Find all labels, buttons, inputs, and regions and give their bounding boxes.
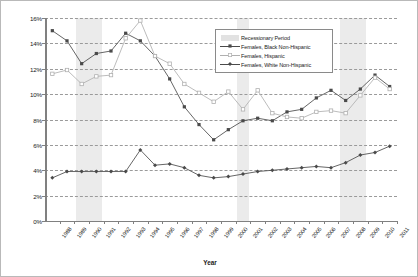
data-point xyxy=(65,170,69,174)
data-point xyxy=(227,90,230,93)
data-point xyxy=(197,91,200,94)
data-point xyxy=(124,37,127,40)
data-point xyxy=(300,108,303,111)
data-point xyxy=(241,119,244,122)
data-point xyxy=(315,110,318,113)
legend-label: Females, White Non-Hispanic xyxy=(241,62,311,68)
data-point xyxy=(94,170,98,174)
data-point xyxy=(109,49,112,52)
data-point xyxy=(95,75,98,78)
data-point xyxy=(285,167,289,171)
legend-key-icon xyxy=(219,33,241,42)
data-point xyxy=(271,119,274,122)
legend: Recessionary PeriodFemales, Black Non-Hi… xyxy=(215,29,333,73)
data-point xyxy=(315,96,318,99)
data-point xyxy=(168,162,172,166)
data-point xyxy=(50,176,54,180)
data-point xyxy=(285,115,288,118)
data-point xyxy=(183,82,186,85)
data-point xyxy=(183,105,186,108)
data-point xyxy=(344,99,347,102)
data-point xyxy=(329,89,332,92)
data-point xyxy=(344,111,347,114)
legend-band-swatch xyxy=(221,35,239,41)
legend-item: Females, White Non-Hispanic xyxy=(219,60,328,69)
data-point xyxy=(241,172,245,176)
data-point xyxy=(227,128,230,131)
data-point xyxy=(80,62,83,65)
chart-container: 0%2%4%6%8%10%12%14%16% 19881989199019911… xyxy=(0,0,418,277)
data-point xyxy=(329,109,332,112)
data-point xyxy=(51,29,54,32)
legend-item: Females, Hispanic xyxy=(219,51,328,60)
data-point xyxy=(388,87,391,90)
data-point xyxy=(388,144,392,148)
data-series-layer xyxy=(1,1,418,277)
data-point xyxy=(359,94,362,97)
legend-marker-icon xyxy=(228,53,232,57)
data-point xyxy=(256,89,259,92)
legend-item: Females, Black Non-Hispanic xyxy=(219,42,328,51)
legend-label: Recessionary Period xyxy=(241,35,290,41)
legend-item: Recessionary Period xyxy=(219,33,328,42)
data-point xyxy=(51,72,54,75)
data-point xyxy=(139,19,142,22)
data-point xyxy=(109,170,113,174)
data-point xyxy=(109,73,112,76)
data-point xyxy=(256,117,259,120)
data-point xyxy=(139,39,142,42)
legend-marker-icon xyxy=(228,62,232,66)
legend-label: Females, Black Non-Hispanic xyxy=(241,44,310,50)
data-point xyxy=(168,62,171,65)
data-point xyxy=(314,164,318,168)
legend-key-icon xyxy=(219,51,241,60)
data-point xyxy=(212,100,215,103)
data-point xyxy=(197,173,201,177)
legend-label: Females, Hispanic xyxy=(241,53,285,59)
data-point xyxy=(212,176,216,180)
data-point xyxy=(373,150,377,154)
data-point xyxy=(182,166,186,170)
data-point xyxy=(124,32,127,35)
legend-key-icon xyxy=(219,42,241,51)
x-axis-title: Year xyxy=(1,259,418,266)
data-point xyxy=(168,77,171,80)
data-point xyxy=(80,82,83,85)
data-point xyxy=(270,168,274,172)
data-point xyxy=(300,117,303,120)
data-point xyxy=(300,166,304,170)
data-point xyxy=(241,108,244,111)
data-point xyxy=(373,76,376,79)
data-point xyxy=(65,39,68,42)
series-line xyxy=(52,146,389,178)
data-point xyxy=(271,111,274,114)
legend-key-icon xyxy=(219,60,241,69)
data-point xyxy=(358,153,362,157)
data-point xyxy=(359,87,362,90)
data-point xyxy=(197,123,200,126)
data-point xyxy=(212,138,215,141)
data-point xyxy=(285,110,288,113)
legend-marker-icon xyxy=(228,44,232,48)
series-3 xyxy=(50,144,391,180)
data-point xyxy=(80,170,84,174)
data-point xyxy=(226,175,230,179)
data-point xyxy=(95,52,98,55)
data-point xyxy=(329,166,333,170)
data-point xyxy=(65,68,68,71)
data-point xyxy=(256,170,260,174)
data-point xyxy=(344,161,348,165)
data-point xyxy=(153,54,156,57)
